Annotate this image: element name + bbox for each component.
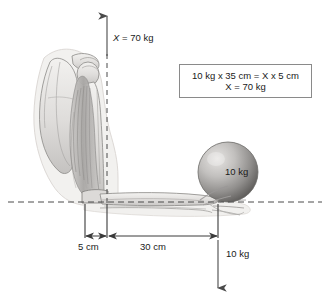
muscle-force-value: = 70 kg: [119, 32, 153, 43]
equation-line-1: 10 kg x 35 cm = X x 5 cm: [192, 70, 299, 81]
load-force-label: 10 kg: [226, 248, 249, 260]
ball-weight-label: 10 kg: [225, 166, 248, 178]
dimension-label-30cm: 30 cm: [140, 241, 166, 253]
muscle-force-label: X = 70 kg: [113, 32, 153, 44]
equation-line1-suffix: x 5 cm: [268, 70, 299, 81]
dimension-label-5cm: 5 cm: [78, 241, 99, 253]
equation-line2-suffix: = 70 kg: [232, 81, 266, 92]
equation-line1-prefix: 10 kg x 35 cm =: [192, 70, 262, 81]
annotation-layer: [0, 0, 328, 300]
equation-box: 10 kg x 35 cm = X x 5 cm X = 70 kg: [179, 64, 312, 98]
equation-line-2: X = 70 kg: [225, 81, 265, 92]
figure-canvas: X = 70 kg 10 kg 5 cm 30 cm 10 kg 10 kg x…: [0, 0, 328, 300]
